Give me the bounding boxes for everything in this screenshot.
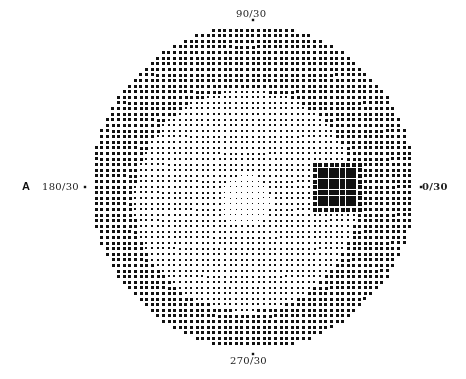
axis-label-top: 90/30	[236, 8, 266, 19]
axis-label-bottom: 270/30	[230, 355, 267, 366]
axis-label-right: 0/30	[422, 181, 448, 192]
panel-label: A	[22, 180, 30, 192]
axis-label-left: 180/30	[42, 181, 79, 192]
